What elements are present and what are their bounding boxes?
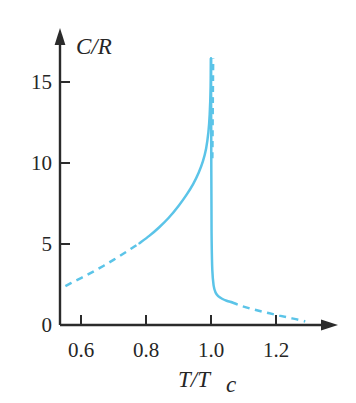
- y-tick-label-10: 10: [31, 151, 52, 175]
- curve-above-tc-drop: [211, 59, 231, 302]
- curve-below-tc-solid: [140, 59, 212, 244]
- x-axis-title-main: T/T: [178, 367, 212, 392]
- x-axis-title-subscript: c: [226, 372, 236, 397]
- y-tick-label-5: 5: [42, 232, 53, 256]
- lambda-transition-plot: 0 5 10 15 0.6 0.8 1.0 1.2 C/R T/T c: [0, 0, 356, 403]
- x-tick-label-1p0: 1.0: [198, 338, 224, 362]
- chart-figure: 0 5 10 15 0.6 0.8 1.0 1.2 C/R T/T c: [0, 0, 356, 403]
- x-tick-label-0p8: 0.8: [133, 338, 159, 362]
- curve-above-tc-tail-dashed: [231, 302, 305, 321]
- y-axis-arrow-icon: [55, 28, 66, 45]
- y-axis-tick-labels: 0 5 10 15: [31, 70, 52, 337]
- x-axis-title: T/T c: [178, 367, 236, 397]
- curve-below-tc-dashed: [65, 243, 139, 286]
- x-axis-arrow-icon: [321, 320, 338, 331]
- y-tick-label-0: 0: [42, 313, 53, 337]
- x-axis-tick-labels: 0.6 0.8 1.0 1.2: [68, 338, 289, 362]
- y-axis-title: C/R: [76, 34, 112, 59]
- data-curves-group: [65, 59, 305, 322]
- x-axis-ticks: [81, 315, 276, 325]
- x-tick-label-0p6: 0.6: [68, 338, 94, 362]
- x-tick-label-1p2: 1.2: [263, 338, 289, 362]
- y-tick-label-15: 15: [31, 70, 52, 94]
- y-axis-ticks: [60, 82, 70, 325]
